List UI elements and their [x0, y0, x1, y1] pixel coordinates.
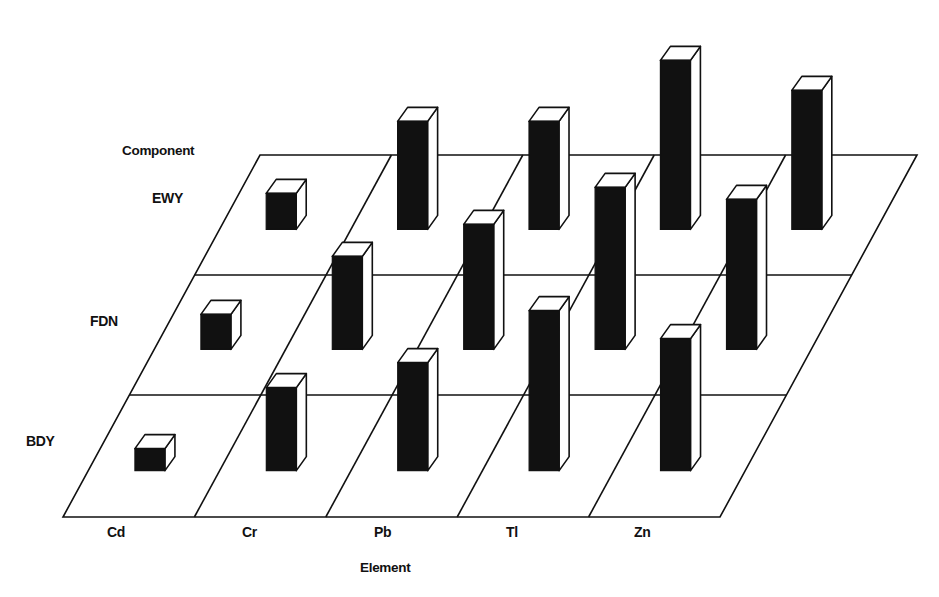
element-axis-title: Element	[360, 560, 410, 575]
column-label-zn: Zn	[634, 524, 651, 540]
bar-ewy-pb	[529, 107, 569, 229]
bar-bdy-zn	[661, 325, 701, 471]
bar-fdn-cd	[201, 300, 241, 349]
bar-fdn-cr	[332, 242, 372, 349]
column-label-tl: Tl	[506, 524, 518, 540]
bar-ewy-zn	[792, 76, 832, 229]
bar-bdy-pb	[398, 349, 438, 471]
3d-bar-chart	[0, 0, 939, 597]
column-label-cr: Cr	[242, 524, 257, 540]
bar-bdy-tl	[529, 297, 569, 471]
row-label-ewy: EWY	[152, 190, 183, 206]
row-label-fdn: FDN	[90, 313, 118, 329]
row-label-bdy: BDY	[26, 433, 55, 449]
bar-bdy-cd	[135, 435, 175, 471]
column-label-cd: Cd	[107, 524, 125, 540]
column-label-pb: Pb	[374, 524, 391, 540]
component-axis-title: Component	[122, 143, 194, 158]
bar-ewy-tl	[660, 46, 700, 229]
bar-fdn-pb	[464, 210, 504, 349]
bar-fdn-tl	[595, 173, 635, 349]
bar-fdn-zn	[727, 185, 767, 349]
bar-ewy-cd	[266, 179, 306, 229]
bar-ewy-cr	[398, 107, 438, 229]
bar-bdy-cr	[266, 374, 306, 471]
